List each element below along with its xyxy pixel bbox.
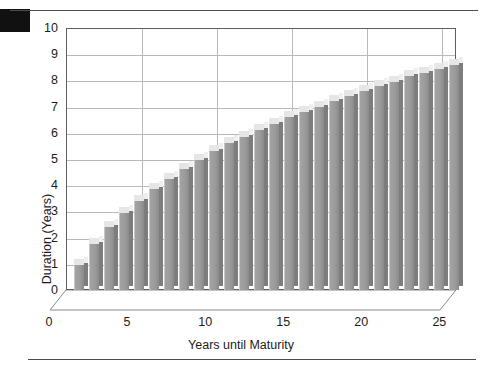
figure-container: 012345678910 Duration (Years) Years unti… (0, 0, 482, 377)
y-axis-title-wrapper: Duration (Years) (24, 80, 44, 260)
bar-face (74, 265, 85, 290)
bar-item (179, 163, 190, 290)
bar-item (269, 118, 280, 290)
x-axis-tick-label: 5 (112, 316, 142, 328)
bar-top (89, 238, 100, 244)
bar-side (339, 97, 343, 286)
bar-item (389, 76, 400, 290)
bar-top-edge (369, 83, 373, 89)
bar-top-edge (219, 143, 223, 149)
bar-top-edge (324, 99, 328, 105)
bar-face (344, 96, 355, 290)
bar-face (209, 151, 220, 290)
bar-top (149, 183, 160, 189)
bar-face (419, 73, 430, 290)
bar-top (374, 80, 385, 86)
bar-top-edge (279, 116, 283, 122)
x-axis-tick-label: 20 (346, 316, 376, 328)
bar-face (299, 112, 310, 290)
bar-item (254, 124, 265, 290)
bar-side (234, 139, 238, 286)
bar-top-edge (144, 193, 148, 199)
bar-side (114, 223, 118, 286)
bar-top-edge (354, 88, 358, 94)
bar-item (374, 80, 385, 290)
bar-face (194, 160, 205, 290)
bar-top-edge (339, 93, 343, 99)
bar-top (329, 95, 340, 101)
x-axis-tick-label: 0 (34, 316, 64, 328)
bar-side (219, 147, 223, 286)
bottom-rule-divider (28, 359, 476, 360)
bar-top (164, 173, 175, 179)
bar-top-edge (294, 109, 298, 115)
bar-top-edge (189, 161, 193, 167)
bar-top-edge (159, 181, 163, 187)
bar-top (314, 101, 325, 107)
bar-face (164, 179, 175, 290)
bar-side (159, 185, 163, 286)
bar-top-edge (99, 236, 103, 242)
bar-face (149, 189, 160, 290)
bar-top-edge (309, 104, 313, 110)
bar-top-edge (444, 61, 448, 67)
bar-face (329, 101, 340, 290)
bar-side (189, 165, 193, 286)
bar-side (399, 78, 403, 286)
bar-face (119, 213, 130, 290)
bar-top-edge (399, 74, 403, 80)
bar-side (414, 72, 418, 286)
bar-face (449, 65, 460, 290)
bar-side (324, 103, 328, 286)
bar-side (99, 240, 103, 286)
bar-face (179, 169, 190, 290)
bar-item (134, 195, 145, 290)
chart-floor-3d (50, 290, 456, 312)
x-axis-title: Years until Maturity (0, 338, 482, 352)
bar-side (459, 61, 463, 286)
bar-face (284, 117, 295, 290)
bar-top (224, 137, 235, 143)
bar-top-edge (234, 135, 238, 141)
bar-side (129, 209, 133, 286)
bar-top (254, 124, 265, 130)
bar-top (344, 90, 355, 96)
bar-item (329, 95, 340, 290)
bar-side (309, 108, 313, 286)
bar-top-edge (414, 68, 418, 74)
bar-item (299, 106, 310, 290)
bar-series-duration (66, 28, 456, 290)
bar-face (389, 82, 400, 290)
bar-item (314, 101, 325, 290)
bar-top-edge (264, 122, 268, 128)
bar-face (89, 244, 100, 290)
bar-face (224, 143, 235, 290)
bar-item (419, 67, 430, 290)
bar-item (149, 183, 160, 290)
bar-top (419, 67, 430, 73)
bar-top (359, 85, 370, 91)
bar-top-edge (384, 78, 388, 84)
y-axis-tick-label: 10 (34, 22, 58, 34)
bar-top (389, 76, 400, 82)
bar-item (284, 111, 295, 290)
bar-top-edge (114, 219, 118, 225)
y-axis-tick-label: 9 (34, 48, 58, 60)
bar-side (384, 82, 388, 286)
bar-face (314, 107, 325, 290)
bar-top (404, 70, 415, 76)
bar-top-edge (204, 152, 208, 158)
bar-side (264, 126, 268, 286)
bar-item (104, 221, 115, 290)
bar-face (359, 91, 370, 290)
bar-top-edge (429, 65, 433, 71)
bar-top-edge (174, 171, 178, 177)
bar-top (119, 207, 130, 213)
bar-top-edge (249, 129, 253, 135)
bar-face (269, 124, 280, 290)
bar-face (434, 69, 445, 290)
bar-face (134, 201, 145, 290)
x-axis-tick-label: 15 (268, 316, 298, 328)
bar-side (279, 120, 283, 286)
bar-top (209, 145, 220, 151)
